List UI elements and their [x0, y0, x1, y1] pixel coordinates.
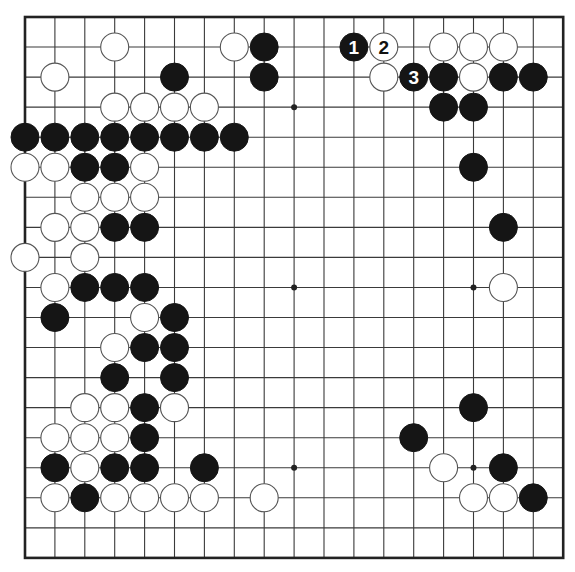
black-stone[interactable]	[250, 63, 278, 91]
black-stone[interactable]	[519, 63, 547, 91]
black-stone[interactable]	[220, 123, 248, 151]
black-stone[interactable]	[101, 153, 129, 181]
black-stone[interactable]	[71, 273, 99, 301]
black-stone[interactable]	[131, 334, 159, 362]
white-stone[interactable]	[131, 304, 159, 332]
white-stone[interactable]	[101, 394, 129, 422]
white-stone-disc	[489, 33, 517, 61]
white-stone[interactable]	[131, 183, 159, 211]
black-stone[interactable]	[430, 63, 458, 91]
black-stone[interactable]	[489, 63, 517, 91]
black-stone[interactable]	[460, 153, 488, 181]
black-stone[interactable]	[161, 304, 189, 332]
white-stone[interactable]	[489, 273, 517, 301]
black-stone[interactable]	[519, 484, 547, 512]
white-stone[interactable]	[250, 484, 278, 512]
white-stone[interactable]	[489, 33, 517, 61]
white-stone[interactable]	[460, 484, 488, 512]
black-stone[interactable]	[190, 123, 218, 151]
black-stone[interactable]	[430, 93, 458, 121]
white-stone[interactable]	[131, 484, 159, 512]
white-stone[interactable]	[131, 93, 159, 121]
numbered-black-stone[interactable]: 3	[400, 63, 428, 91]
black-stone[interactable]	[131, 123, 159, 151]
white-stone[interactable]	[430, 33, 458, 61]
black-stone[interactable]	[131, 213, 159, 241]
white-stone[interactable]	[131, 153, 159, 181]
black-stone[interactable]	[489, 213, 517, 241]
white-stone[interactable]	[220, 33, 248, 61]
black-stone[interactable]	[489, 454, 517, 482]
black-stone-disc	[101, 364, 129, 392]
black-stone-disc	[41, 304, 69, 332]
black-stone[interactable]	[11, 123, 39, 151]
white-stone[interactable]	[101, 334, 129, 362]
white-stone-disc	[131, 484, 159, 512]
white-stone[interactable]	[101, 33, 129, 61]
white-stone[interactable]	[11, 153, 39, 181]
white-stone[interactable]	[370, 63, 398, 91]
black-stone[interactable]	[101, 454, 129, 482]
black-stone[interactable]	[131, 454, 159, 482]
white-stone[interactable]	[71, 183, 99, 211]
black-stone[interactable]	[460, 93, 488, 121]
black-stone[interactable]	[41, 304, 69, 332]
white-stone[interactable]	[101, 183, 129, 211]
black-stone[interactable]	[101, 123, 129, 151]
white-stone[interactable]	[71, 213, 99, 241]
white-stone[interactable]	[430, 454, 458, 482]
white-stone[interactable]	[161, 394, 189, 422]
black-stone-disc	[101, 213, 129, 241]
numbered-white-stone[interactable]: 2	[370, 33, 398, 61]
black-stone[interactable]	[41, 454, 69, 482]
black-stone[interactable]	[71, 153, 99, 181]
white-stone-disc	[460, 33, 488, 61]
white-stone[interactable]	[460, 33, 488, 61]
white-stone[interactable]	[41, 213, 69, 241]
white-stone[interactable]	[41, 484, 69, 512]
move-number-label: 1	[349, 37, 360, 58]
white-stone[interactable]	[41, 63, 69, 91]
black-stone[interactable]	[161, 63, 189, 91]
black-stone[interactable]	[131, 424, 159, 452]
numbered-black-stone[interactable]: 1	[340, 33, 368, 61]
black-stone[interactable]	[41, 123, 69, 151]
white-stone[interactable]	[190, 93, 218, 121]
white-stone[interactable]	[460, 63, 488, 91]
white-stone-disc	[161, 93, 189, 121]
white-stone-disc	[460, 63, 488, 91]
white-stone[interactable]	[101, 424, 129, 452]
white-stone[interactable]	[41, 273, 69, 301]
white-stone[interactable]	[101, 484, 129, 512]
white-stone[interactable]	[11, 243, 39, 271]
white-stone[interactable]	[41, 153, 69, 181]
white-stone[interactable]	[161, 484, 189, 512]
white-stone-disc	[430, 33, 458, 61]
black-stone[interactable]	[161, 334, 189, 362]
white-stone[interactable]	[41, 424, 69, 452]
black-stone[interactable]	[190, 454, 218, 482]
black-stone[interactable]	[400, 424, 428, 452]
black-stone[interactable]	[71, 123, 99, 151]
white-stone[interactable]	[489, 484, 517, 512]
black-stone-disc	[250, 33, 278, 61]
black-stone[interactable]	[101, 213, 129, 241]
black-stone[interactable]	[71, 484, 99, 512]
white-stone[interactable]	[71, 454, 99, 482]
black-stone[interactable]	[460, 394, 488, 422]
black-stone[interactable]	[161, 364, 189, 392]
white-stone[interactable]	[71, 394, 99, 422]
white-stone[interactable]	[71, 424, 99, 452]
black-stone[interactable]	[250, 33, 278, 61]
black-stone[interactable]	[101, 273, 129, 301]
black-stone[interactable]	[131, 273, 159, 301]
white-stone[interactable]	[190, 484, 218, 512]
black-stone[interactable]	[131, 394, 159, 422]
white-stone[interactable]	[101, 93, 129, 121]
white-stone[interactable]	[71, 243, 99, 271]
black-stone-disc	[489, 454, 517, 482]
black-stone[interactable]	[101, 364, 129, 392]
white-stone[interactable]	[161, 93, 189, 121]
black-stone[interactable]	[161, 123, 189, 151]
white-stone-disc	[131, 304, 159, 332]
